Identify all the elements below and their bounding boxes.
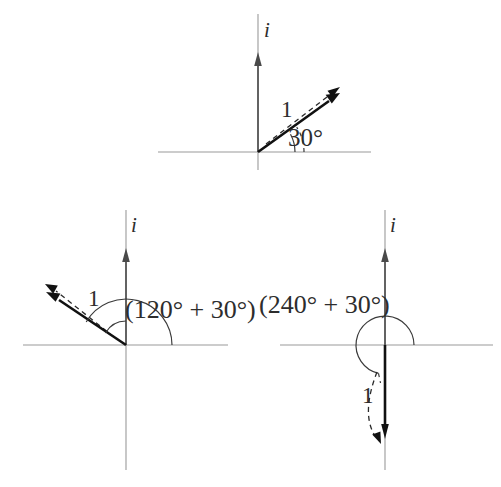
unit-vector-arrowhead-bottom-right (381, 424, 389, 439)
angle-arc-inner-bottom-left (105, 321, 126, 333)
angle-arc-dashed-tail-bottom-right (379, 373, 381, 383)
imaginary-axis-label-top: i (264, 18, 270, 42)
panel-top: i 1 30° (158, 14, 371, 170)
figure-canvas: i 1 30° i 1 (120° + 30°) (0, 0, 501, 487)
angle-label-top: 30° (288, 124, 323, 151)
magnitude-label-top: 1 (281, 97, 293, 122)
panel-bottom-left: i 1 (120° + 30°) (23, 210, 256, 470)
imaginary-axis-arrowhead-top (254, 52, 262, 66)
angle-label-bottom-right: (240° + 30°) (259, 290, 390, 319)
imaginary-axis-arrowhead-bottom-left (122, 248, 130, 262)
imaginary-axis-label-bottom-left: i (131, 213, 137, 237)
magnitude-label-bottom-right: 1 (362, 383, 374, 408)
complex-plane-figure: i 1 30° i 1 (120° + 30°) (0, 0, 501, 487)
angle-label-bottom-left: (120° + 30°) (125, 295, 256, 324)
imaginary-axis-arrowhead-bottom-right (381, 248, 389, 262)
imaginary-axis-label-bottom-right: i (390, 213, 396, 237)
magnitude-label-bottom-left: 1 (88, 286, 100, 311)
panel-bottom-right: i 1 (240° + 30°) (259, 210, 493, 470)
unit-vector-arrowhead-bottom-left (46, 292, 60, 302)
